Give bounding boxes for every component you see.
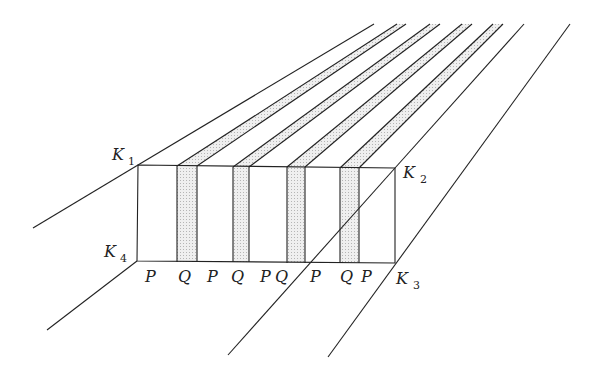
label-k1: K — [111, 145, 125, 164]
label-k3: K — [395, 269, 409, 288]
label-q: Q — [340, 267, 353, 286]
label-k2-sub: 2 — [420, 173, 427, 186]
label-k1-sub: 1 — [128, 155, 135, 168]
label-q: Q — [231, 267, 244, 286]
label-p: P — [360, 267, 372, 286]
label-k2: K — [402, 163, 416, 182]
label-q: Q — [275, 267, 288, 286]
label-p: P — [206, 267, 218, 286]
label-q: Q — [178, 267, 191, 286]
front-shaded-strips — [177, 166, 359, 263]
label-k4-sub: 4 — [120, 252, 127, 265]
label-k4: K — [103, 242, 117, 261]
label-k3-sub: 3 — [413, 279, 420, 292]
label-p: P — [309, 267, 321, 286]
label-p: P — [144, 267, 156, 286]
bottom-labels: P Q P Q P Q P Q P — [144, 267, 372, 286]
label-p: P — [259, 267, 271, 286]
perspective-strip-diagram: K 1 K 2 K 3 K 4 P Q P Q P Q P Q P — [0, 0, 593, 370]
